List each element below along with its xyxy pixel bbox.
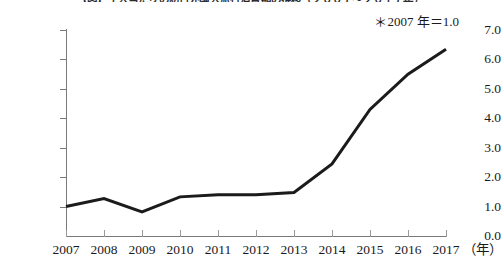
data-series-line	[0, 0, 501, 275]
chart-figure: 【図】１人当たりの訪日外国人旅行消費額の推移（２００７〜２０１７年） ＊2007…	[0, 0, 501, 275]
